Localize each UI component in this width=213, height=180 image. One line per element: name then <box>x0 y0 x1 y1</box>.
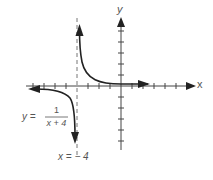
graph-canvas <box>0 0 213 180</box>
right-branch-curve <box>80 30 149 84</box>
x-axis-label: x <box>197 78 203 90</box>
function-denominator: x + 4 <box>42 118 71 128</box>
asymptote-label: x = − 4 <box>58 151 89 162</box>
function-label-lhs: y = <box>22 111 36 122</box>
function-numerator: 1 <box>45 105 68 115</box>
y-axis-label: y <box>117 3 123 15</box>
